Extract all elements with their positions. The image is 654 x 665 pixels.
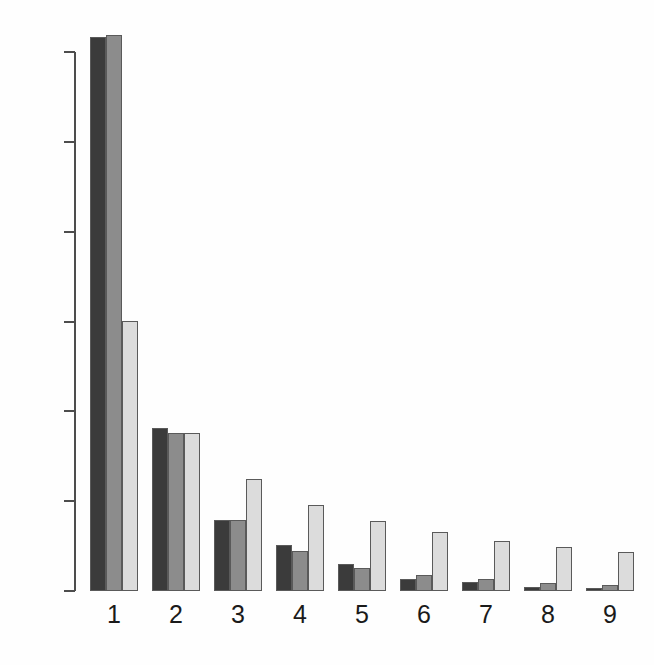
bar-group: [276, 12, 324, 591]
x-tick-label: 4: [275, 600, 325, 629]
bar: [432, 532, 448, 591]
bar-group: [524, 12, 572, 591]
bar: [230, 520, 246, 591]
bar: [618, 552, 634, 591]
bar: [106, 35, 122, 591]
bar: [478, 579, 494, 591]
bar: [90, 37, 106, 591]
x-tick-label: 7: [461, 600, 511, 629]
bar-group: [462, 12, 510, 591]
x-tick-label: 1: [89, 600, 139, 629]
x-tick-label: 9: [585, 600, 635, 629]
bar-group: [586, 12, 634, 591]
bar: [370, 521, 386, 591]
bar: [276, 545, 292, 591]
bar: [494, 541, 510, 591]
x-tick-label: 6: [399, 600, 449, 629]
bar: [184, 433, 200, 591]
bar: [416, 575, 432, 591]
x-tick-label: 2: [151, 600, 201, 629]
bar-chart: 0.00.10.20.30.40.50.6 123456789: [0, 0, 654, 665]
bar: [354, 568, 370, 591]
bar: [308, 505, 324, 591]
bar: [524, 587, 540, 591]
bar: [168, 433, 184, 591]
bar: [214, 520, 230, 591]
bar: [338, 564, 354, 591]
bar: [556, 547, 572, 591]
x-tick-label: 3: [213, 600, 263, 629]
bar-group: [214, 12, 262, 591]
bar: [540, 583, 556, 591]
bar: [586, 588, 602, 591]
bar: [152, 428, 168, 591]
bar-group: [338, 12, 386, 591]
bar: [602, 585, 618, 591]
bar-group: [90, 12, 138, 591]
bar: [246, 479, 262, 591]
bar: [122, 321, 138, 591]
bar-group: [152, 12, 200, 591]
bar-group: [400, 12, 448, 591]
x-tick-label: 8: [523, 600, 573, 629]
plot-area: 123456789: [0, 0, 654, 665]
bar: [462, 582, 478, 591]
bar: [292, 551, 308, 591]
x-tick-label: 5: [337, 600, 387, 629]
bar: [400, 579, 416, 591]
